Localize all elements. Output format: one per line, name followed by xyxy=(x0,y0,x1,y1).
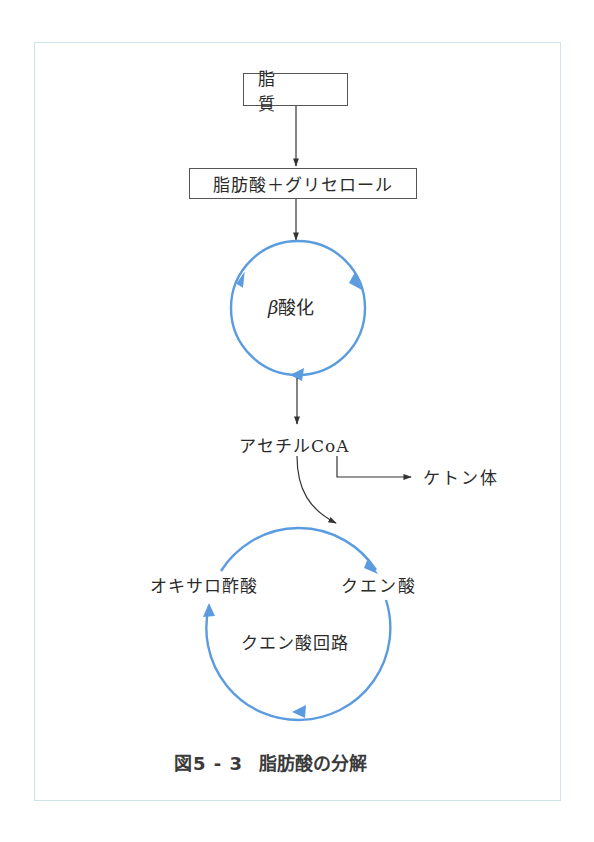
diagram-canvas xyxy=(0,0,594,842)
citric-acid-cycle-icon xyxy=(203,528,390,720)
figure-title: 脂肪酸の分解 xyxy=(259,753,367,774)
figure-number: 図5 - 3 xyxy=(174,753,243,774)
node-acetyl-coa: アセチルCoA xyxy=(239,436,350,456)
arrow-acetyl-coa-to-ketone xyxy=(337,456,411,477)
beta-oxidation-label: 酸化 xyxy=(278,297,314,318)
figure-caption: 図5 - 3脂肪酸の分解 xyxy=(174,749,367,775)
node-citric-acid: クエン酸 xyxy=(341,576,417,596)
beta-symbol: β xyxy=(268,297,278,318)
node-fatty-acid-glycerol: 脂肪酸＋グリセロール xyxy=(189,168,417,199)
node-citric-acid-cycle: クエン酸回路 xyxy=(241,633,349,653)
node-fatty-acid-glycerol-label: 脂肪酸＋グリセロール xyxy=(213,171,393,196)
node-lipid: 脂 質 xyxy=(243,73,348,106)
node-lipid-label: 脂 質 xyxy=(258,65,347,115)
node-oxaloacetic-acid: オキサロ酢酸 xyxy=(150,576,258,596)
arrow-acetyl-coa-to-cycle xyxy=(297,456,336,523)
node-beta-oxidation: β酸化 xyxy=(268,298,314,318)
node-ketone-bodies: ケトン体 xyxy=(423,468,499,488)
